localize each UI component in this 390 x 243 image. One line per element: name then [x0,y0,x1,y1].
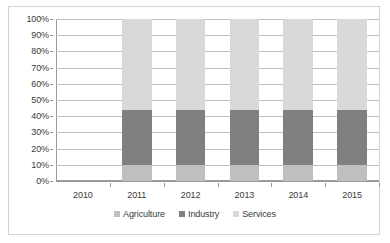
legend-swatch-icon [233,211,239,217]
y-axis-tick [50,19,53,20]
bar-segment-industry[interactable] [230,110,260,165]
gridline [56,19,379,20]
gridline [56,51,379,52]
x-axis-tick [271,183,272,187]
y-axis-tick [50,132,53,133]
bar-segment-services[interactable] [337,19,367,110]
legend-item-services[interactable]: Services [233,209,276,219]
y-axis-tick [50,116,53,117]
legend-label: Services [242,209,276,219]
chart-legend: AgricultureIndustryServices [9,209,381,219]
gridline [56,132,379,133]
y-axis-tick-label: 100% [26,14,49,24]
y-axis-tick-label: 0% [36,176,49,186]
x-axis-tick-label: 2015 [342,190,362,200]
bar-group[interactable] [337,19,367,181]
x-axis-tick [218,183,219,187]
y-axis-tick [50,68,53,69]
bar-segment-agriculture[interactable] [122,165,152,181]
x-axis-tick [164,183,165,187]
y-axis-tick-label: 10% [31,160,49,170]
x-axis-tick-label: 2010 [73,190,93,200]
bar-segment-services[interactable] [230,19,260,110]
gridline [56,181,379,182]
y-axis-tick-label: 90% [31,30,49,40]
bar-segment-agriculture[interactable] [176,165,206,181]
bar-segment-industry[interactable] [283,110,313,165]
y-axis-tick-label: 40% [31,111,49,121]
y-axis-tick-label: 70% [31,63,49,73]
bar-segment-agriculture[interactable] [337,165,367,181]
gridline [56,35,379,36]
bar-segment-agriculture[interactable] [283,165,313,181]
y-axis-tick [50,100,53,101]
y-axis-tick [50,35,53,36]
legend-item-industry[interactable]: Industry [179,209,219,219]
x-axis-tick [325,183,326,187]
chart-frame: 0%10%20%30%40%50%60%70%80%90%100% 201020… [8,6,380,235]
bar-group[interactable] [283,19,313,181]
legend-swatch-icon [179,211,185,217]
y-axis-tick-label: 50% [31,95,49,105]
bar-segment-services[interactable] [122,19,152,110]
x-axis-labels: 201020112012201320142015 [56,183,379,203]
x-axis-tick [379,183,380,187]
bar-group[interactable] [230,19,260,181]
y-axis-tick [50,84,53,85]
x-axis-tick-label: 2014 [288,190,308,200]
x-axis-tick [110,183,111,187]
bar-segment-industry[interactable] [122,110,152,165]
bar-group[interactable] [122,19,152,181]
bar-group[interactable] [176,19,206,181]
legend-label: Agriculture [123,209,165,219]
y-axis-tick-label: 60% [31,79,49,89]
x-axis-tick-label: 2013 [235,190,255,200]
y-axis-tick [50,181,53,182]
gridline [56,165,379,166]
gridline [56,84,379,85]
y-axis-tick-label: 20% [31,144,49,154]
x-axis-tick-label: 2011 [127,190,146,200]
bar-segment-services[interactable] [283,19,313,110]
y-axis-tick-label: 30% [31,127,49,137]
y-axis-labels: 0%10%20%30%40%50%60%70%80%90%100% [9,19,53,181]
x-axis-tick-label: 2012 [181,190,201,200]
y-axis-tick [50,149,53,150]
gridline [56,68,379,69]
legend-swatch-icon [114,211,120,217]
bar-segment-industry[interactable] [337,110,367,165]
gridline [56,149,379,150]
bar-segment-services[interactable] [176,19,206,110]
y-axis-tick-label: 80% [31,46,49,56]
bar-segment-agriculture[interactable] [230,165,260,181]
legend-item-agriculture[interactable]: Agriculture [114,209,165,219]
y-axis-tick [50,51,53,52]
bar-segment-industry[interactable] [176,110,206,165]
plot-area [56,19,379,181]
legend-label: Industry [188,209,219,219]
gridline [56,116,379,117]
gridline [56,100,379,101]
y-axis-tick [50,165,53,166]
